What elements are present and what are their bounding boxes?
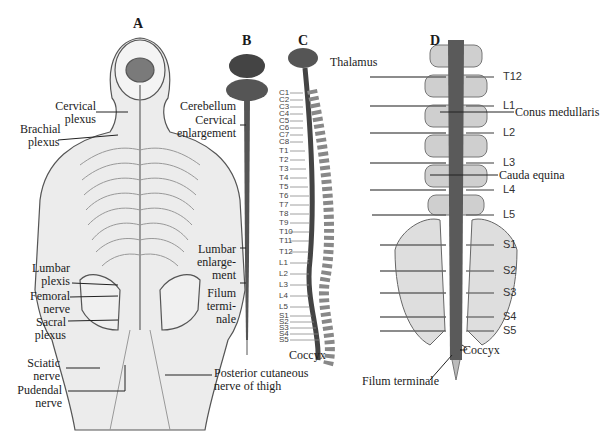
label-lumbar-plexus: Lumbar plexis (20, 262, 70, 288)
segment-label: S4 (503, 310, 516, 322)
label-line: nerve of thigh (214, 380, 308, 393)
cauda-equina-d (370, 40, 517, 380)
label-sacral-plexus: Sacral plexus (20, 316, 66, 342)
label-lumbar-enlargement: Lumbar enlarge- ment (190, 243, 236, 282)
label-line: ment (190, 269, 236, 282)
segment-label: T6 (279, 192, 288, 200)
segment-label: T4 (279, 174, 288, 182)
segment-label: T9 (279, 219, 288, 227)
segment-label: T3 (279, 165, 288, 173)
segment-label: L4 (503, 183, 515, 195)
label-line: plexus (20, 329, 66, 342)
panel-label-c: C (298, 33, 308, 49)
segment-label: L2 (279, 270, 288, 278)
label-cervical-enlargement: Cervical enlargement (170, 114, 236, 140)
label-brachial-plexus: Brachial plexus (20, 123, 61, 149)
segment-label: L4 (279, 292, 288, 300)
segment-label: T11 (279, 237, 292, 245)
label-pudendal-nerve: Pudendal nerve (14, 384, 62, 410)
segment-label: T12 (503, 70, 522, 82)
segment-label: L2 (503, 126, 515, 138)
segment-label: T10 (279, 228, 293, 236)
segment-label: T1 (279, 147, 288, 155)
label-sciatic-nerve: Sciatic nerve (20, 357, 60, 383)
segment-label: T12 (279, 248, 293, 256)
label-coccyx-d: Coccyx (463, 344, 500, 357)
spine-c (288, 48, 330, 365)
panel-label-a: A (133, 16, 143, 32)
label-line: nale (190, 313, 236, 326)
segment-label: T5 (279, 183, 288, 191)
segment-label: S5 (279, 336, 289, 344)
label-cerebellum: Cerebellum (170, 100, 236, 113)
label-femoral-nerve: Femoral nerve (20, 290, 70, 316)
label-line: nerve (14, 397, 62, 410)
segment-label: L3 (279, 281, 288, 289)
label-line: plexis (20, 275, 70, 288)
label-thalamus: Thalamus (330, 56, 377, 69)
segment-label: L3 (503, 156, 515, 168)
segment-label: S3 (503, 286, 516, 298)
segment-label: L1 (503, 99, 515, 111)
label-line: plexus (20, 136, 61, 149)
segment-label: T7 (279, 201, 288, 209)
label-filum-terminale-b: Filum termi- nale (190, 287, 236, 326)
label-cauda-equina: Cauda equina (499, 169, 565, 182)
segment-label: C8 (279, 138, 289, 146)
label-line: nerve (20, 370, 60, 383)
segment-label: L1 (279, 259, 288, 267)
segment-label: T8 (279, 210, 288, 218)
segment-label: L5 (503, 208, 515, 220)
segment-label: S2 (503, 264, 516, 276)
spinal-cord-diagram: A B C D Cervical plexus Brachial plexus … (0, 0, 614, 438)
panel-label-b: B (242, 33, 251, 49)
panel-label-d: D (430, 33, 440, 49)
label-posterior-cutaneous-nerve: Posterior cutaneous nerve of thigh (214, 367, 308, 393)
label-line: enlargement (170, 127, 236, 140)
label-conus-medullaris: Conus medullaris (515, 106, 599, 119)
label-coccyx-c: Coccyx (289, 349, 326, 362)
segment-label: T2 (279, 156, 288, 164)
segment-label: L5 (279, 303, 288, 311)
segment-label: S5 (503, 324, 516, 336)
label-filum-terminale-d: Filum terminale (362, 375, 439, 388)
segment-label: S1 (503, 238, 516, 250)
